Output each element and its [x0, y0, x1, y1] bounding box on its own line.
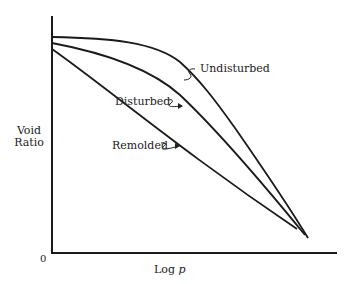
diagram-plot [0, 0, 353, 284]
x-axis-label: Log p [154, 264, 186, 276]
consolidation-diagram: Undisturbed Disturbed Remolded Void Rati… [0, 0, 353, 284]
y-axis-label: Void Ratio [14, 125, 44, 149]
y-axis-label-line2: Ratio [14, 137, 44, 149]
remolded-curve [52, 49, 297, 229]
undisturbed-label: Undisturbed [200, 63, 270, 75]
x-axis-label-var: p [178, 263, 185, 276]
disturbed-arrow-icon [178, 103, 183, 109]
remolded-label: Remolded [112, 140, 168, 152]
disturbed-label: Disturbed [115, 96, 170, 108]
origin-label: 0 [40, 253, 46, 265]
x-axis-label-prefix: Log [154, 263, 175, 276]
